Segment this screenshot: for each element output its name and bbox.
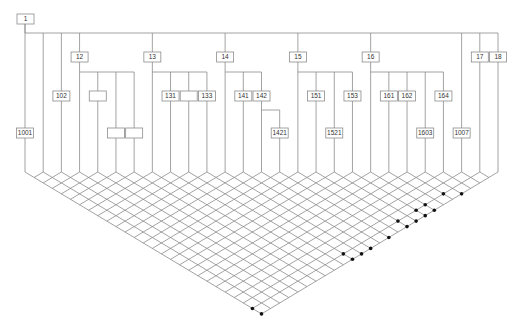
node-label: 151 (311, 92, 322, 99)
tree-node: 16 (362, 52, 379, 62)
intersection-dot (414, 208, 418, 212)
lattice-dots (251, 192, 464, 316)
intersection-dot (460, 192, 464, 196)
tree-node (180, 91, 197, 101)
tree-node: 164 (435, 91, 452, 101)
lattice-diagonal (143, 172, 261, 243)
lattice-diagonal (298, 172, 398, 232)
node-label: 1001 (18, 129, 33, 136)
tree-node: 161 (380, 91, 397, 101)
intersection-dot (351, 258, 355, 262)
node-label: 161 (383, 92, 394, 99)
tree-node: 162 (399, 91, 416, 101)
intersection-dot (369, 247, 373, 251)
lattice-diagonal (116, 172, 307, 287)
tree-node (107, 128, 124, 138)
node-label: 164 (438, 92, 449, 99)
tree-node: 1421 (271, 128, 288, 138)
lattice-grid (25, 172, 498, 314)
tree-node (89, 91, 106, 101)
node-box (89, 91, 106, 101)
node-label: 141 (238, 92, 249, 99)
node-label: 142 (256, 92, 267, 99)
node-label: 14 (221, 53, 229, 60)
node-label: 1603 (418, 129, 433, 136)
lattice-diagonal (125, 172, 225, 232)
intersection-dot (360, 252, 364, 256)
node-label: 1521 (327, 129, 342, 136)
tree-node: 102 (53, 91, 70, 101)
tree-node: 13 (144, 52, 161, 62)
node-box (180, 91, 197, 101)
tree-node: 18 (490, 52, 507, 62)
intersection-dot (251, 307, 255, 311)
node-label: 15 (294, 53, 302, 60)
lattice-diagonal (334, 172, 416, 221)
lattice-diagonal (252, 172, 479, 308)
tree-node: 1603 (417, 128, 434, 138)
diagram-canvas: 1100110212131311331414114214211515115211… (0, 0, 528, 332)
node-box (126, 128, 143, 138)
lattice-diagonal (161, 172, 297, 254)
intersection-dot (405, 225, 409, 229)
root-node: 1 (17, 14, 34, 24)
node-label: 131 (165, 92, 176, 99)
intersection-dot (442, 192, 446, 196)
node-label: 102 (56, 92, 67, 99)
intersection-dot (342, 252, 346, 256)
node-label: 18 (494, 53, 502, 60)
tree-node: 17 (471, 52, 488, 62)
tree-node: 141 (235, 91, 252, 101)
lattice-diagonal (43, 172, 270, 308)
lattice-diagonal (89, 172, 153, 210)
tree-node: 153 (344, 91, 361, 101)
intersection-dot (423, 214, 427, 218)
node-label: 13 (149, 53, 157, 60)
lattice-diagonal (34, 172, 43, 177)
tree-node: 14 (217, 52, 234, 62)
tree-node: 131 (162, 91, 179, 101)
tree-lattice-diagram: 1100110212131311331414114214211515115211… (0, 0, 528, 332)
lattice-diagonal (198, 172, 371, 276)
tree-node: 151 (308, 91, 325, 101)
intersection-dot (396, 219, 400, 223)
lattice-diagonal (480, 172, 489, 177)
node-label: 133 (201, 92, 212, 99)
lattice-diagonal (70, 172, 115, 199)
tree-node: 12 (71, 52, 88, 62)
lattice-diagonal (216, 172, 407, 287)
tree-node: 1007 (453, 128, 470, 138)
lattice-diagonal (262, 172, 380, 243)
lattice-diagonal (107, 172, 189, 221)
tree-node: 15 (289, 52, 306, 62)
node-label: 1 (24, 15, 28, 22)
node-label: 16 (367, 53, 375, 60)
tree-node: 133 (198, 91, 215, 101)
tree-node: 1001 (17, 128, 34, 138)
tree-node (126, 128, 143, 138)
node-box (107, 128, 124, 138)
intersection-dot (260, 312, 264, 316)
tree-node: 142 (253, 91, 270, 101)
node-label: 12 (76, 53, 84, 60)
node-label: 1007 (454, 129, 469, 136)
intersection-dot (433, 208, 437, 212)
lattice-diagonal (225, 172, 361, 254)
intersection-dot (414, 219, 418, 223)
node-label: 153 (347, 92, 358, 99)
intersection-dot (387, 236, 391, 240)
lattice-diagonal (407, 172, 452, 199)
tree-node: 1521 (326, 128, 343, 138)
lattice-diagonal (152, 172, 325, 276)
node-label: 162 (402, 92, 413, 99)
node-label: 17 (476, 53, 484, 60)
node-label: 1421 (272, 129, 287, 136)
intersection-dot (423, 203, 427, 207)
